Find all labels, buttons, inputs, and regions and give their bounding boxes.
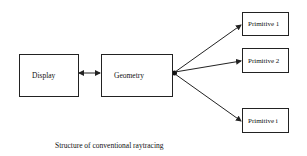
- primitivei-node: Primitive i: [242, 108, 289, 133]
- edge-geometry-primitive2: [175, 61, 241, 72]
- geometry-label: Geometry: [114, 71, 144, 80]
- edge-geometry-primitivei: [175, 74, 241, 121]
- geometry-node: Geometry: [101, 54, 173, 97]
- primitivei-label: Primitive i: [248, 117, 278, 125]
- diagram-caption: Structure of conventional raytracing: [55, 141, 164, 150]
- display-label: Display: [32, 71, 55, 80]
- primitive1-label: Primitive 1: [248, 20, 279, 28]
- primitive2-label: Primitive 2: [248, 57, 279, 65]
- primitive1-node: Primitive 1: [242, 12, 289, 36]
- display-node: Display: [19, 54, 79, 97]
- edge-geometry-primitive1: [175, 25, 241, 72]
- primitive2-node: Primitive 2: [242, 48, 289, 73]
